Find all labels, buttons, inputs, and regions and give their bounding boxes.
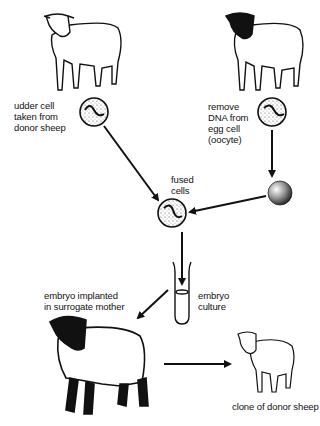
label-fused-cells: fused cells bbox=[171, 174, 194, 196]
arrow-enucleated-to-fused bbox=[190, 196, 266, 212]
label-embryo-implanted: embryo implanted in surrogate mother bbox=[44, 290, 124, 312]
label-remove-dna: remove DNA from egg cell (oocyte) bbox=[208, 101, 248, 145]
cloning-diagram: udder cell taken from donor sheep remove… bbox=[0, 0, 320, 426]
enucleated-egg-icon bbox=[268, 181, 292, 205]
diagram-artwork bbox=[0, 0, 320, 426]
donor-sheep-icon bbox=[44, 14, 121, 90]
surrogate-sheep-icon bbox=[50, 316, 148, 414]
udder-cell-icon bbox=[80, 98, 108, 126]
label-udder-cell: udder cell taken from donor sheep bbox=[14, 100, 66, 133]
arrow-tube-to-surrogate bbox=[138, 290, 168, 318]
arrows bbox=[104, 126, 272, 364]
label-clone: clone of donor sheep bbox=[232, 401, 319, 412]
label-embryo-culture: embryo culture bbox=[198, 290, 229, 312]
fused-cell-icon bbox=[158, 199, 186, 227]
egg-cell-icon bbox=[258, 98, 286, 126]
egg-donor-sheep-icon bbox=[226, 13, 303, 90]
clone-sheep-icon bbox=[238, 332, 294, 392]
arrow-udder-to-fused bbox=[104, 126, 158, 200]
